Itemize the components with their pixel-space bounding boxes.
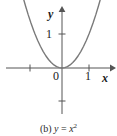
y-axis-label: y xyxy=(48,8,53,20)
x-axis-label: x xyxy=(102,72,108,84)
plot-canvas xyxy=(0,0,117,136)
caption-rhs-exponent: 2 xyxy=(74,122,78,130)
y-tick-label-one: 1 xyxy=(46,28,52,40)
caption-lhs: y xyxy=(54,123,58,134)
y-axis-arrowhead xyxy=(59,6,66,12)
figure-container: y x 0 1 1 (b) y = x2 xyxy=(0,0,117,136)
origin-label: 0 xyxy=(53,70,59,82)
x-tick-label-one: 1 xyxy=(85,70,91,82)
figure-caption: (b) y = x2 xyxy=(0,122,117,134)
caption-prefix: (b) xyxy=(40,123,52,134)
x-axis-arrowhead xyxy=(110,65,116,72)
caption-equals: = xyxy=(61,123,67,134)
